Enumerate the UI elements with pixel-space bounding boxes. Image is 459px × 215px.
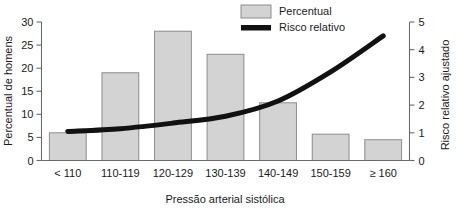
left-tick-label-15: 15 <box>21 85 33 97</box>
category-label-1: 110-119 <box>101 167 140 179</box>
x-axis-title: Pressão arterial sistólica <box>165 193 285 205</box>
right-tick-label-3: 3 <box>419 71 425 83</box>
left-tick-label-25: 25 <box>21 39 33 51</box>
right-axis-title: Risco relativo ajustado <box>439 40 451 151</box>
bar-140-149 <box>260 103 297 161</box>
category-label-0: < 110 <box>54 167 81 179</box>
bar-120-129 <box>155 31 192 160</box>
legend-label-percentual: Percentual <box>279 5 332 17</box>
right-tick-label-0: 0 <box>419 155 425 167</box>
bar-130-139 <box>207 54 244 160</box>
bar-110-119 <box>102 73 139 161</box>
bar-150-159 <box>312 134 349 160</box>
legend-swatch-percentual <box>241 5 271 18</box>
category-label-5: 150-159 <box>310 167 350 179</box>
right-tick-label-5: 5 <box>419 16 425 28</box>
bar-<110 <box>49 133 86 161</box>
left-tick-label-20: 20 <box>21 62 33 74</box>
right-tick-label-4: 4 <box>419 44 425 56</box>
right-tick-label-1: 1 <box>419 127 425 139</box>
bar-160 <box>365 140 402 161</box>
left-tick-label-30: 30 <box>21 16 33 28</box>
chart-container: 051015202530 Percentual de homens 012345… <box>0 0 459 215</box>
category-label-4: 140-149 <box>258 167 298 179</box>
left-tick-label-10: 10 <box>21 108 33 120</box>
legend-swatch-risco-relativo <box>241 25 271 31</box>
category-label-6: ≥ 160 <box>369 167 396 179</box>
right-tick-label-2: 2 <box>419 99 425 111</box>
category-labels: < 110110-119120-129130-139140-149150-159… <box>54 167 397 179</box>
legend-label-risco-relativo: Risco relativo <box>279 21 345 33</box>
left-axis-title: Percentual de homens <box>2 35 14 146</box>
systolic-blood-pressure-chart: 051015202530 Percentual de homens 012345… <box>0 0 459 215</box>
category-label-3: 130-139 <box>205 167 245 179</box>
category-label-2: 120-129 <box>153 167 193 179</box>
left-tick-label-5: 5 <box>27 131 33 143</box>
left-tick-label-0: 0 <box>27 155 33 167</box>
